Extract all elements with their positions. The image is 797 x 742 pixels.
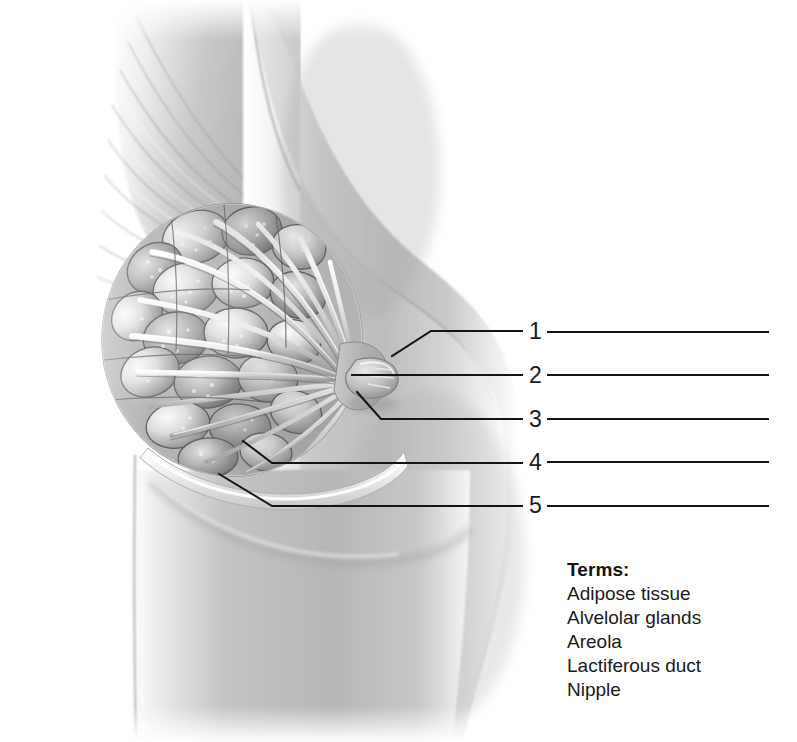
term-item-alveolar-glands: Alvelolar glands (567, 606, 782, 630)
term-item-nipple: Nipple (567, 678, 782, 702)
term-item-adipose-tissue: Adipose tissue (567, 582, 782, 606)
callout-number-5: 5 (529, 494, 542, 517)
terms-heading: Terms: (567, 558, 782, 582)
term-item-lactiferous-duct: Lactiferous duct (567, 654, 782, 678)
callout-number-2: 2 (529, 364, 542, 387)
callout-number-4: 4 (529, 451, 542, 474)
callout-number-1: 1 (529, 320, 542, 343)
callout-number-3: 3 (529, 408, 542, 431)
figure-page: 1 2 3 4 5 Terms: Adipose tissue Alvelola… (0, 0, 797, 742)
term-item-areola: Areola (567, 630, 782, 654)
terms-word-bank: Terms: Adipose tissue Alvelolar glands A… (567, 558, 782, 702)
